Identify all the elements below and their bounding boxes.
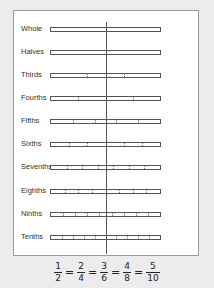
fraction: 48 xyxy=(123,262,131,283)
strip-divider xyxy=(87,143,88,146)
denominator: 8 xyxy=(123,274,131,283)
strip-divider xyxy=(116,120,117,123)
numerator: 4 xyxy=(123,262,131,271)
strip-label: Whole xyxy=(21,24,42,34)
strip-row-thirds: Thirds xyxy=(14,70,200,80)
strip-label: Ninths xyxy=(21,209,42,219)
strip-row-fourths: Fourths xyxy=(14,93,200,103)
strip-divider xyxy=(124,213,125,216)
strip-row-eighths: Eighths xyxy=(14,186,200,196)
strip-divider xyxy=(142,143,143,146)
strip-divider xyxy=(73,236,74,239)
strip-divider xyxy=(124,143,125,146)
strip-divider xyxy=(148,213,149,216)
strip-divider xyxy=(133,97,134,100)
strip-divider xyxy=(98,166,99,169)
strip-divider xyxy=(144,166,145,169)
fraction-strips-frame: WholeHalvesThirdsFourthsFifthsSixthsSeve… xyxy=(13,10,199,256)
strip-divider xyxy=(95,236,96,239)
strip-divider xyxy=(113,166,114,169)
strip-row-tenths: Tenths xyxy=(14,232,200,242)
fraction: 24 xyxy=(77,262,85,283)
strip-divider xyxy=(78,97,79,100)
denominator: 6 xyxy=(100,274,108,283)
equals-sign: = xyxy=(65,267,74,278)
equals-sign: = xyxy=(134,267,143,278)
strip-divider xyxy=(63,213,64,216)
strip-label: Tenths xyxy=(21,232,43,242)
denominator: 2 xyxy=(54,274,62,283)
strip-row-halves: Halves xyxy=(14,47,200,57)
strip-row-whole: Whole xyxy=(14,24,200,34)
equals-sign: = xyxy=(111,267,120,278)
strip-divider xyxy=(69,143,70,146)
fraction: 510 xyxy=(146,262,159,283)
strip-divider xyxy=(138,236,139,239)
strip-divider xyxy=(75,213,76,216)
equals-sign: = xyxy=(88,267,97,278)
denominator: 4 xyxy=(77,274,85,283)
strip-divider xyxy=(67,166,68,169)
strip-label: Thirds xyxy=(21,70,42,80)
strip-row-sevenths: Sevenths xyxy=(14,162,200,172)
strip-label: Eighths xyxy=(21,186,46,196)
strip-divider xyxy=(95,120,96,123)
strip-label: Halves xyxy=(21,47,44,57)
strip-divider xyxy=(82,166,83,169)
strip-label: Sevenths xyxy=(21,162,52,172)
strip-divider xyxy=(133,190,134,193)
strip-row-sixths: Sixths xyxy=(14,139,200,149)
strip-divider xyxy=(92,190,93,193)
strip-divider xyxy=(116,236,117,239)
strip-label: Sixths xyxy=(21,139,41,149)
numerator: 2 xyxy=(77,262,85,271)
strip-label: Fifths xyxy=(21,116,39,126)
strip-divider xyxy=(62,236,63,239)
strip-divider xyxy=(112,213,113,216)
strip-divider xyxy=(127,236,128,239)
strip-label: Fourths xyxy=(21,93,46,103)
strip-divider xyxy=(149,236,150,239)
strip-divider xyxy=(73,120,74,123)
strip-row-fifths: Fifths xyxy=(14,116,200,126)
strip-divider xyxy=(84,236,85,239)
strip-divider xyxy=(87,213,88,216)
numerator: 5 xyxy=(149,262,157,271)
strip-divider xyxy=(129,166,130,169)
strip-divider xyxy=(136,213,137,216)
half-marker-line xyxy=(106,22,107,254)
strip-divider xyxy=(78,190,79,193)
strip-divider xyxy=(124,74,125,77)
strip-divider xyxy=(146,190,147,193)
fraction: 12 xyxy=(54,262,62,283)
fraction: 36 xyxy=(100,262,108,283)
strip-row-ninths: Ninths xyxy=(14,209,200,219)
equivalent-fractions-equation: 12=24=36=48=510 xyxy=(0,258,214,286)
strip-divider xyxy=(87,74,88,77)
strip-divider xyxy=(99,213,100,216)
numerator: 3 xyxy=(100,262,108,271)
strip-divider xyxy=(65,190,66,193)
denominator: 10 xyxy=(146,274,159,283)
numerator: 1 xyxy=(54,262,62,271)
strip-divider xyxy=(119,190,120,193)
strip-divider xyxy=(138,120,139,123)
